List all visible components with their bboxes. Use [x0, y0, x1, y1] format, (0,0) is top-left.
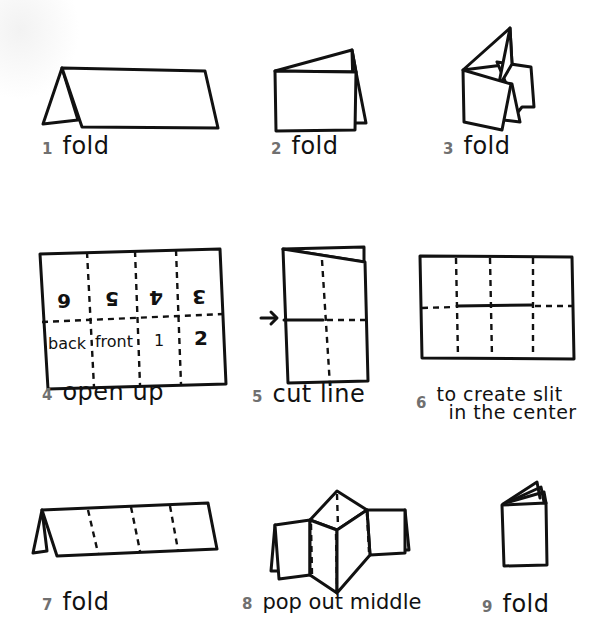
step-7-caption: 7 fold	[42, 588, 109, 616]
step-number: 4	[42, 386, 52, 404]
step-number: 6	[416, 394, 426, 412]
cell-3: 3	[192, 285, 206, 309]
step-number: 2	[271, 140, 281, 158]
step-number: 7	[42, 596, 52, 614]
step8-drawing	[271, 491, 409, 593]
step-label: cut line	[272, 380, 365, 408]
cell-4: 4	[149, 286, 163, 310]
step-4-caption: 4 open up	[42, 378, 164, 406]
cell-front: front	[95, 332, 133, 351]
arrow-right-icon	[261, 312, 277, 324]
cell-6: 6	[57, 289, 71, 313]
step3-drawing	[463, 28, 534, 130]
step-label: to create slit in the center	[436, 385, 576, 421]
step-label: fold	[62, 588, 109, 616]
folding-illustrations: 6 5 4 3 back front 1 2	[0, 0, 606, 621]
step9-drawing	[502, 482, 547, 566]
step5-drawing	[261, 247, 368, 386]
cell-5: 5	[105, 287, 119, 311]
step-number: 9	[482, 598, 492, 616]
step-label: fold	[291, 132, 338, 160]
step1-drawing	[43, 68, 218, 128]
step-3-caption: 3 fold	[443, 132, 510, 160]
step-8-caption: 8 pop out middle	[242, 590, 421, 614]
step2-drawing	[275, 50, 366, 131]
step-label: pop out middle	[262, 590, 421, 614]
cell-2: 2	[194, 326, 208, 350]
step-label: fold	[502, 590, 549, 618]
cell-1: 1	[154, 331, 164, 350]
step-label: open up	[62, 378, 163, 406]
step-1-caption: 1 fold	[42, 132, 109, 160]
step-number: 5	[252, 388, 262, 406]
step4-grid: 6 5 4 3 back front 1 2	[40, 249, 226, 389]
step-2-caption: 2 fold	[271, 132, 338, 160]
step-number: 3	[443, 140, 453, 158]
step-6-caption: 6 to create slit in the center	[416, 385, 577, 421]
step-label: fold	[62, 132, 109, 160]
step-label: fold	[463, 132, 510, 160]
step-label-line2: in the center	[436, 403, 576, 421]
step-number: 8	[242, 595, 252, 613]
step6-drawing	[420, 256, 574, 359]
step-9-caption: 9 fold	[482, 590, 549, 618]
step7-drawing	[33, 503, 217, 556]
step-number: 1	[42, 140, 52, 158]
cell-back: back	[48, 334, 87, 353]
step-5-caption: 5 cut line	[252, 380, 365, 408]
